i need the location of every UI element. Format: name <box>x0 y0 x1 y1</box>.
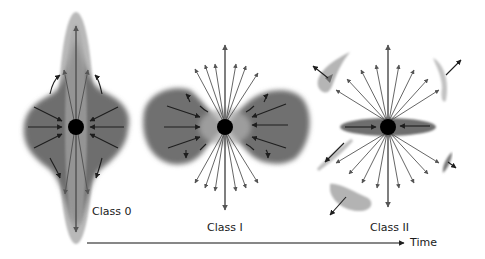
class0-label: Class 0 <box>92 205 131 218</box>
class2-label: Class II <box>370 221 409 234</box>
class2-remnant-mid-left <box>318 140 352 170</box>
time-axis-label: Time <box>410 236 437 249</box>
class1-group <box>143 45 310 210</box>
protostar-evolution-diagram: Class 0 Class I Class II Time <box>0 0 485 259</box>
class2-remnant-lower-right <box>443 152 452 173</box>
class2-group <box>313 45 461 215</box>
class0-protostar <box>68 119 84 135</box>
class1-protostar <box>217 119 233 135</box>
class2-protostar <box>380 119 396 135</box>
class2-remnant-upper-left <box>318 52 350 92</box>
class1-label: Class I <box>207 221 243 234</box>
class2-remnant-lower-left <box>330 184 371 211</box>
class2-remnant-upper-right <box>433 58 447 102</box>
